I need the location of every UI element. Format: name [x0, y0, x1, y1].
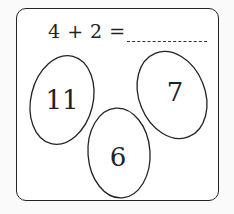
- egg-option-6[interactable]: 6: [110, 142, 127, 172]
- egg-option-7[interactable]: 7: [167, 77, 184, 107]
- eggs-drawing: [0, 0, 234, 214]
- egg-option-11[interactable]: 11: [45, 85, 78, 115]
